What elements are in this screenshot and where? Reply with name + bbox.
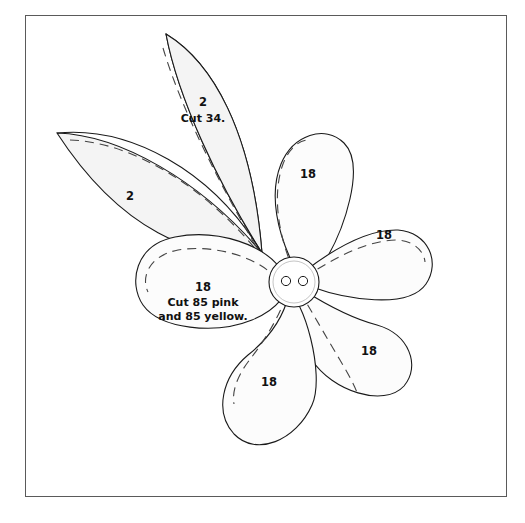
petal-left-number-label: 18 xyxy=(195,280,211,294)
pattern-page: 2 Cut 34. 2 18 18 18 18 18 Cut 85 pink a… xyxy=(0,0,525,523)
button-outer-circle xyxy=(269,257,319,307)
leaf-upper-number-label: 2 xyxy=(199,95,207,109)
petal-right-number-label: 18 xyxy=(376,228,392,242)
flower-pattern-diagram: 2 Cut 34. 2 18 18 18 18 18 Cut 85 pink a… xyxy=(0,0,525,523)
petal-top-number-label: 18 xyxy=(300,167,316,181)
petal-bottom-number-label: 18 xyxy=(261,375,277,389)
button-hole-right-icon xyxy=(298,276,307,285)
button-hole-left-icon xyxy=(281,276,290,285)
leaf-upper-instruction-label: Cut 34. xyxy=(181,112,225,125)
center-button[interactable] xyxy=(269,257,319,307)
petal-bottom-right-number-label: 18 xyxy=(361,344,377,358)
petal-left-instruction-line-2: and 85 yellow. xyxy=(158,310,247,323)
leaf-left-number-label: 2 xyxy=(126,189,134,203)
leaf-group xyxy=(57,34,262,254)
petal-left-instruction-line-1: Cut 85 pink xyxy=(168,296,240,309)
